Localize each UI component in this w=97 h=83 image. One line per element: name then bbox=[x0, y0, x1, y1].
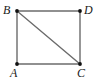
edge-group bbox=[17, 11, 80, 64]
geometry-figure: B D A C bbox=[0, 0, 97, 83]
vertex-label-D: D bbox=[84, 4, 93, 16]
vertex-dot-D bbox=[78, 9, 82, 13]
vertex-dot-B bbox=[15, 9, 19, 13]
vertex-label-A: A bbox=[10, 67, 17, 79]
edge-BC-diagonal bbox=[17, 11, 80, 64]
vertex-label-C: C bbox=[77, 67, 85, 79]
vertex-label-B: B bbox=[3, 4, 10, 16]
